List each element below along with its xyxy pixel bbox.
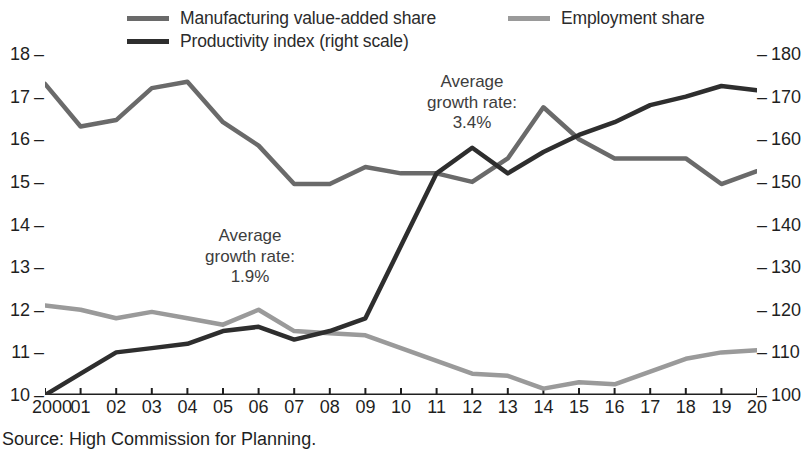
x-axis-tick-18: 18 [676, 398, 696, 416]
x-axis-tick-08: 08 [320, 398, 340, 416]
x-axis-tick-11: 11 [427, 398, 446, 416]
y-axis-right-tick-170: –170 [757, 88, 801, 106]
legend-swatch-icon-emp [508, 16, 550, 21]
x-axis-tick-13: 13 [498, 398, 518, 416]
x-axis-tick-14: 14 [533, 398, 553, 416]
x-axis-tick-15: 15 [569, 398, 589, 416]
legend-label-emp: Employment share [561, 10, 705, 28]
y-axis-right-tick-110: –110 [757, 343, 800, 361]
y-axis-left-tick-17: 17– [0, 88, 44, 106]
y-axis-left-tick-12: 12– [0, 301, 44, 319]
x-axis-tick-06: 06 [249, 398, 269, 416]
y-axis-left-tick-14: 14– [0, 216, 44, 234]
chart-legend: Manufacturing value-added share Employme… [0, 8, 811, 54]
x-axis-tick-02: 02 [106, 398, 126, 416]
x-axis-tick-05: 05 [213, 398, 233, 416]
source-note: Source: High Commission for Planning. [2, 429, 316, 450]
legend-item-productivity-index: Productivity index (right scale) [127, 33, 409, 51]
x-axis-tick-20: 20 [747, 398, 767, 416]
legend-swatch-icon-prod [127, 39, 169, 44]
x-axis-tick-04: 04 [177, 398, 197, 416]
y-axis-left-tick-11: 11– [0, 343, 44, 361]
chart-figure: Manufacturing value-added share Employme… [0, 0, 811, 458]
annotation-average-growth-rate-2: Average growth rate: 3.4% [396, 72, 548, 134]
legend-label-prod: Productivity index (right scale) [180, 33, 409, 51]
y-axis-right-tick-130: –130 [757, 258, 801, 276]
y-axis-right-tick-120: –120 [757, 301, 801, 319]
legend-swatch-icon-mva [127, 16, 169, 21]
annotation-average-growth-rate-1: Average growth rate: 1.9% [175, 226, 325, 288]
y-axis-left-tick-15: 15– [0, 173, 44, 191]
x-axis-tick-16: 16 [605, 398, 625, 416]
x-axis-tick-10: 10 [391, 398, 411, 416]
x-axis-tick-09: 09 [355, 398, 375, 416]
x-axis-labels: 2000010203040506070809101112131415161718… [0, 398, 811, 424]
x-axis-tick-2000: 2000 [32, 398, 72, 416]
x-axis-tick-01: 01 [71, 398, 91, 416]
x-axis-tick-03: 03 [142, 398, 162, 416]
x-axis-tick-12: 12 [462, 398, 482, 416]
legend-item-manufacturing-value-added-share: Manufacturing value-added share [127, 10, 436, 28]
legend-item-employment-share: Employment share [508, 10, 705, 28]
y-axis-right-tick-150: –150 [757, 173, 801, 191]
legend-label-mva: Manufacturing value-added share [180, 10, 436, 28]
x-axis-tick-19: 19 [711, 398, 731, 416]
x-axis-tick-17: 17 [640, 398, 660, 416]
x-axis-tick-07: 07 [284, 398, 304, 416]
y-axis-right-tick-140: –140 [757, 216, 801, 234]
y-axis-right-tick-160: –160 [757, 130, 801, 148]
y-axis-left-tick-16: 16– [0, 130, 44, 148]
y-axis-left-tick-13: 13– [0, 258, 44, 276]
